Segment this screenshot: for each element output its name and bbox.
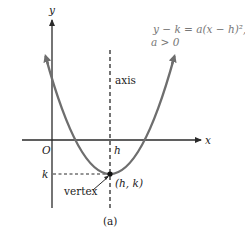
h-label: h	[114, 145, 121, 156]
y-axis-label: y	[49, 5, 55, 16]
k-label: k	[42, 169, 48, 180]
vertex-coordinate-label: (h, k)	[115, 178, 143, 189]
equation-line-1: y − k = a(x − h)²,	[153, 24, 245, 35]
x-axis-label: x	[205, 135, 211, 146]
equation-line-2: a > 0	[151, 37, 179, 48]
parabola-graph	[0, 0, 245, 242]
vertex-label: vertex	[64, 186, 98, 197]
parabola-figure: y x O h k (h, k) vertex axis y − k = a(x…	[0, 0, 245, 242]
axis-label: axis	[115, 75, 136, 86]
origin-label: O	[42, 145, 51, 156]
figure-caption: (a)	[103, 216, 117, 227]
